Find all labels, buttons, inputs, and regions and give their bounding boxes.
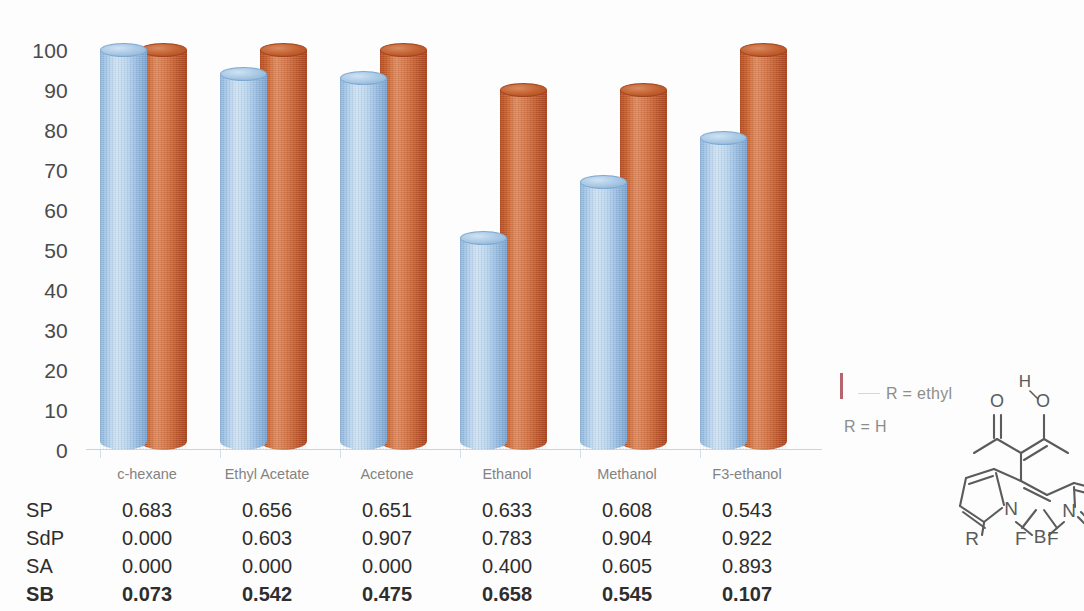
table-cell: 0.633 [482, 499, 532, 522]
bar-top-ellipse [700, 131, 747, 145]
bar-body [580, 182, 627, 450]
table-cell: 0.651 [362, 499, 412, 522]
table-cell: 0.000 [362, 555, 412, 578]
bar-top-ellipse [740, 43, 787, 57]
svg-text:O: O [1036, 391, 1050, 411]
bar-body [380, 50, 427, 450]
table-cell: 0.605 [602, 555, 652, 578]
table-cell: 0.000 [122, 555, 172, 578]
y-axis-tick-label: 30 [44, 320, 68, 341]
bar-series-r-h [460, 231, 507, 450]
x-axis-tick [460, 450, 461, 458]
bar-texture [740, 50, 787, 450]
legend-leader-line-ethyl [858, 393, 880, 394]
table-cell: 0.904 [602, 527, 652, 550]
bar-texture [100, 50, 147, 450]
bar-texture [460, 238, 507, 450]
table-cell: 0.000 [122, 527, 172, 550]
x-axis-category-label: F3-ethanol [712, 466, 781, 482]
table-cell: 0.907 [362, 527, 412, 550]
table-cell: 0.542 [242, 583, 292, 606]
y-axis-tick-label: 70 [44, 160, 68, 181]
table-cell: 0.658 [482, 583, 532, 606]
y-axis-tick-label: 100 [32, 40, 68, 61]
bar-group [92, 50, 212, 450]
y-axis: 1009080706050403020100 [0, 0, 78, 470]
x-axis-tick [100, 450, 101, 458]
table-cell: 0.922 [722, 527, 772, 550]
table-row-label: SA [26, 555, 53, 578]
table-cell: 0.000 [242, 555, 292, 578]
bar-body [500, 90, 547, 450]
page-edge-marker [840, 373, 843, 399]
bar-top-ellipse [140, 43, 187, 57]
x-axis-tick [340, 450, 341, 458]
bar-body [460, 238, 507, 450]
bar-texture [220, 74, 267, 450]
y-axis-tick-label: 10 [44, 400, 68, 421]
bar-top-ellipse [380, 43, 427, 57]
bar-texture [700, 138, 747, 450]
x-axis-category-labels: c-hexaneEthyl AcetateAcetoneEthanolMetha… [78, 466, 840, 492]
table-cell: 0.475 [362, 583, 412, 606]
bar-body [260, 50, 307, 450]
bar-series-r-h [580, 175, 627, 450]
x-axis-tick [580, 450, 581, 458]
y-axis-tick-label: 80 [44, 120, 68, 141]
legend-label-r-h: R = H [844, 418, 887, 436]
y-axis-tick-label: 60 [44, 200, 68, 221]
svg-text:R: R [965, 528, 979, 545]
y-axis-tick-label: 0 [56, 440, 68, 461]
bar-body [100, 50, 147, 450]
bar-group [332, 50, 452, 450]
bar-series-r-ethyl [740, 43, 787, 450]
y-axis-tick-label: 40 [44, 280, 68, 301]
bar-body [740, 50, 787, 450]
bar-top-ellipse [500, 83, 547, 97]
chart-page: 1009080706050403020100 c-hexaneEthyl Ace… [0, 0, 1084, 611]
table-cell: 0.608 [602, 499, 652, 522]
table-row-label: SB [26, 583, 54, 606]
bar-series-r-ethyl [260, 43, 307, 450]
svg-text:H: H [1019, 372, 1031, 391]
x-axis-category-label: Ethyl Acetate [225, 466, 310, 482]
bar-texture [500, 90, 547, 450]
table-cell: 0.543 [722, 499, 772, 522]
bar-top-ellipse [260, 43, 307, 57]
legend-and-structure-panel: R = ethyl R = H H O O [840, 0, 1084, 611]
bar-body [140, 50, 187, 450]
bar-texture [140, 50, 187, 450]
bar-series-r-h [700, 131, 747, 450]
x-axis-category-label: Ethanol [482, 466, 531, 482]
bar-series-r-h [220, 67, 267, 450]
table-cell: 0.545 [602, 583, 652, 606]
bar-group [572, 50, 692, 450]
x-axis-category-label: Methanol [597, 466, 657, 482]
y-axis-tick-label: 90 [44, 80, 68, 101]
solvent-parameter-table: SP0.6830.6560.6510.6330.6080.543SdP0.000… [0, 495, 840, 611]
table-cell: 0.893 [722, 555, 772, 578]
x-axis-category-label: Acetone [360, 466, 413, 482]
bar-series-r-ethyl [620, 83, 667, 450]
x-axis-tick [700, 450, 701, 458]
bar-top-ellipse [220, 67, 267, 81]
plot-area [78, 0, 840, 470]
table-cell: 0.073 [122, 583, 172, 606]
bar-top-ellipse [460, 231, 507, 245]
table-cell: 0.683 [122, 499, 172, 522]
table-row-label: SdP [26, 527, 64, 550]
bar-series-r-ethyl [140, 43, 187, 450]
bar-series-r-h [340, 71, 387, 450]
bar-texture [620, 90, 667, 450]
bar-top-ellipse [100, 43, 147, 57]
bar-group [212, 50, 332, 450]
y-axis-tick-label: 20 [44, 360, 68, 381]
bar-texture [380, 50, 427, 450]
bar-chart: 1009080706050403020100 c-hexaneEthyl Ace… [0, 0, 840, 470]
bar-top-ellipse [580, 175, 627, 189]
bar-body [340, 78, 387, 450]
table-cell: 0.603 [242, 527, 292, 550]
bar-body [620, 90, 667, 450]
boron-fluorine-bonds [1010, 508, 1080, 538]
table-cell: 0.107 [722, 583, 772, 606]
